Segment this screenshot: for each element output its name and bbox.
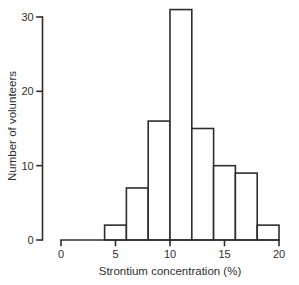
y-tick-label: 0 <box>28 234 34 246</box>
histogram-bar <box>214 166 236 240</box>
y-axis-title: Number of volunteers <box>6 71 18 181</box>
y-axis-tick-labels: 0102030 <box>21 11 33 246</box>
histogram-bar <box>235 173 257 240</box>
histogram-bar <box>148 121 170 240</box>
x-tick-label: 20 <box>273 248 285 260</box>
histogram-bar <box>257 225 279 240</box>
histogram-bar <box>126 188 148 240</box>
y-axis-ticks <box>36 17 42 240</box>
x-axis-title: Strontium concentration (%) <box>99 265 242 277</box>
x-tick-label: 0 <box>58 248 64 260</box>
x-tick-label: 10 <box>164 248 176 260</box>
chart-canvas: 05101520 0102030 Strontium concentration… <box>0 0 299 285</box>
y-tick-label: 30 <box>21 11 33 23</box>
x-axis-ticks <box>61 240 279 246</box>
histogram-bars <box>105 10 279 240</box>
histogram-figure: 05101520 0102030 Strontium concentration… <box>0 0 299 285</box>
x-tick-label: 5 <box>112 248 118 260</box>
histogram-bar <box>105 225 127 240</box>
histogram-bar <box>170 10 192 240</box>
x-tick-label: 15 <box>218 248 230 260</box>
y-tick-label: 10 <box>21 160 33 172</box>
histogram-bar <box>192 129 214 241</box>
x-axis-tick-labels: 05101520 <box>58 248 285 260</box>
y-tick-label: 20 <box>21 85 33 97</box>
